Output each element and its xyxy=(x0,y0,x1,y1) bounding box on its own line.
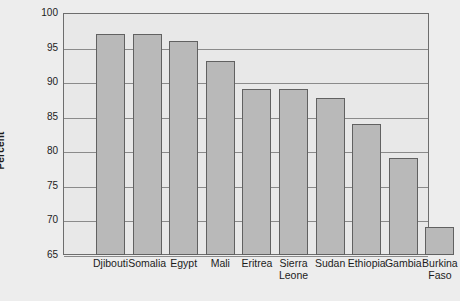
bar-eritrea xyxy=(242,89,271,255)
y-axis-tick-labels: 10095908580757065 xyxy=(20,13,58,255)
y-tick-label-100: 100 xyxy=(24,8,58,18)
bar-egypt xyxy=(169,41,198,255)
y-tick-label-85: 85 xyxy=(24,112,58,122)
y-tick-label-70: 70 xyxy=(24,215,58,225)
bars-layer xyxy=(63,13,429,255)
bar-somalia xyxy=(133,34,162,255)
bar-burkina-faso xyxy=(425,227,454,255)
category-label-line2: Leone xyxy=(264,269,324,281)
y-tick-label-65: 65 xyxy=(24,250,58,260)
y-tick-label-95: 95 xyxy=(24,43,58,53)
y-tick-label-80: 80 xyxy=(24,146,58,156)
category-label-line1: Burkina xyxy=(422,257,458,269)
category-label-burkina-faso: BurkinaFaso xyxy=(410,257,460,281)
y-tick-label-90: 90 xyxy=(24,77,58,87)
bar-ethiopia xyxy=(352,124,381,255)
bar-mali xyxy=(206,61,235,255)
bar-sierra-leone xyxy=(279,89,308,255)
bar-sudan xyxy=(316,98,345,255)
bar-gambia xyxy=(389,158,418,255)
category-label-line2: Faso xyxy=(410,269,460,281)
bar-chart-figure: Percent 10095908580757065 DjiboutiSomali… xyxy=(0,0,460,301)
bar-djibouti xyxy=(96,34,125,255)
y-tick-label-75: 75 xyxy=(24,181,58,191)
x-axis-category-labels: DjiboutiSomaliaEgyptMaliEritreaSierraLeo… xyxy=(63,257,429,299)
